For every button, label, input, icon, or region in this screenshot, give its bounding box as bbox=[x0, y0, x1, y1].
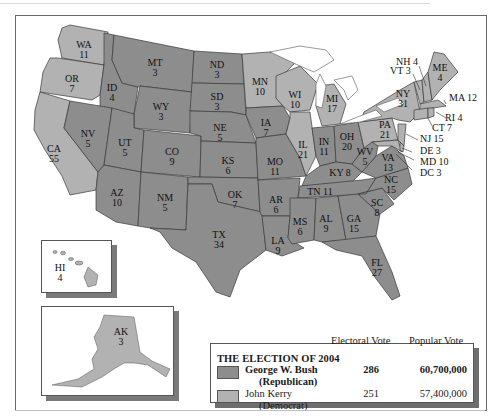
svg-text:21: 21 bbox=[380, 129, 390, 140]
svg-text:MD 10: MD 10 bbox=[420, 156, 449, 167]
svg-text:5: 5 bbox=[123, 147, 128, 158]
svg-text:CT 7: CT 7 bbox=[432, 122, 452, 133]
state-AK[interactable] bbox=[52, 315, 170, 387]
state-HI-island bbox=[69, 258, 74, 261]
popular-vote-header: Popular Vote bbox=[409, 335, 463, 346]
svg-text:17: 17 bbox=[327, 103, 337, 114]
svg-text:8: 8 bbox=[375, 207, 380, 218]
democrat-swatch bbox=[217, 390, 239, 403]
svg-text:3: 3 bbox=[215, 69, 220, 80]
svg-text:MA 12: MA 12 bbox=[449, 92, 477, 103]
state-HI-island bbox=[53, 251, 57, 254]
svg-text:55: 55 bbox=[49, 153, 59, 164]
svg-text:7: 7 bbox=[70, 83, 75, 94]
svg-text:9: 9 bbox=[324, 223, 329, 234]
svg-text:TN 11: TN 11 bbox=[307, 186, 332, 197]
svg-text:DE 3: DE 3 bbox=[420, 145, 441, 156]
svg-text:7: 7 bbox=[233, 199, 238, 210]
svg-text:7: 7 bbox=[264, 127, 269, 138]
kerry-name: John Kerry bbox=[245, 388, 292, 400]
alaska-map: AK 3 bbox=[42, 307, 173, 395]
svg-text:3: 3 bbox=[159, 111, 164, 122]
svg-text:NJ 15: NJ 15 bbox=[420, 133, 444, 144]
svg-text:11: 11 bbox=[270, 166, 280, 177]
svg-text:VT 3: VT 3 bbox=[390, 65, 411, 76]
hawaii-inset: HI 4 bbox=[41, 240, 112, 293]
state-HI-island bbox=[75, 261, 83, 265]
bush-party: (Republican) bbox=[259, 376, 317, 388]
bush-electoral: 286 bbox=[349, 364, 379, 375]
svg-text:KY 8: KY 8 bbox=[329, 167, 351, 178]
state-RI[interactable] bbox=[428, 108, 434, 118]
svg-text:21: 21 bbox=[298, 149, 308, 160]
svg-text:3: 3 bbox=[215, 101, 220, 112]
svg-text:11: 11 bbox=[319, 146, 329, 157]
svg-text:13: 13 bbox=[383, 162, 393, 173]
svg-text:5: 5 bbox=[86, 138, 91, 149]
svg-text:10: 10 bbox=[255, 86, 265, 97]
svg-text:27: 27 bbox=[372, 267, 382, 278]
svg-text:10: 10 bbox=[290, 99, 300, 110]
svg-text:9: 9 bbox=[276, 245, 281, 256]
svg-text:6: 6 bbox=[274, 204, 279, 215]
republican-swatch bbox=[217, 366, 239, 379]
svg-text:15: 15 bbox=[386, 184, 396, 195]
svg-text:3: 3 bbox=[119, 336, 124, 347]
svg-text:5: 5 bbox=[363, 156, 368, 167]
state-HI-island bbox=[61, 251, 66, 255]
bottom-rule bbox=[15, 410, 485, 411]
svg-text:3: 3 bbox=[153, 67, 158, 78]
state-HI[interactable] bbox=[84, 267, 98, 287]
state-CT[interactable] bbox=[414, 108, 428, 120]
bush-name: George W. Bush bbox=[245, 364, 318, 376]
svg-text:5: 5 bbox=[163, 202, 168, 213]
legend: THE ELECTION OF 2004 Electoral Vote Popu… bbox=[210, 343, 474, 403]
kerry-popular: 57,400,000 bbox=[401, 388, 467, 399]
svg-text:4: 4 bbox=[438, 72, 443, 83]
svg-text:DC 3: DC 3 bbox=[420, 167, 441, 178]
svg-text:15: 15 bbox=[349, 223, 359, 234]
svg-text:9: 9 bbox=[170, 156, 175, 167]
electoral-vote-header: Electoral Vote bbox=[331, 335, 390, 346]
state-FL[interactable] bbox=[322, 236, 400, 300]
svg-text:5: 5 bbox=[218, 132, 223, 143]
legend-title: THE ELECTION OF 2004 bbox=[217, 353, 340, 364]
bush-popular: 60,700,000 bbox=[401, 364, 467, 375]
svg-text:4: 4 bbox=[58, 272, 63, 283]
kerry-electoral: 251 bbox=[349, 388, 379, 399]
svg-text:11: 11 bbox=[79, 49, 89, 60]
svg-text:6: 6 bbox=[226, 165, 231, 176]
svg-text:20: 20 bbox=[342, 141, 352, 152]
hawaii-map: HI 4 bbox=[42, 241, 111, 292]
svg-text:34: 34 bbox=[214, 239, 224, 250]
alaska-inset: AK 3 bbox=[41, 306, 174, 396]
svg-text:6: 6 bbox=[298, 226, 303, 237]
svg-text:10: 10 bbox=[112, 197, 122, 208]
svg-text:31: 31 bbox=[398, 98, 408, 109]
svg-text:4: 4 bbox=[110, 92, 115, 103]
